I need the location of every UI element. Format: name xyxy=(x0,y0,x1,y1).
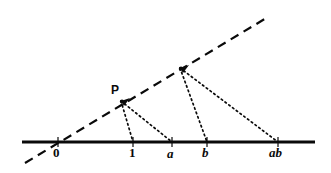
axis-label-1: 1 xyxy=(129,146,136,159)
segment-q-to-b xyxy=(180,68,207,142)
segment-p-to-a xyxy=(121,101,172,142)
point-label-p: P xyxy=(111,84,119,96)
axis-label-a: a xyxy=(167,147,174,160)
segment-q-to-ab xyxy=(180,68,278,142)
axis-label-ab: ab xyxy=(269,146,282,159)
axis-label-0: 0 xyxy=(53,146,60,159)
geometric-diagram: P 0 1 a b ab xyxy=(0,0,331,173)
axis-label-b: b xyxy=(202,146,209,159)
segment-p-to-1 xyxy=(121,101,133,142)
